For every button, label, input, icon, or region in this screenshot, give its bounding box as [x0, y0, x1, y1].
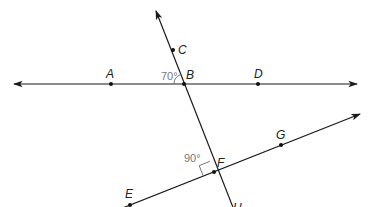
angle-label-B: 70°: [161, 70, 178, 82]
point-C: [171, 48, 175, 52]
point-F: [212, 170, 216, 174]
label-B: B: [186, 68, 194, 82]
label-D: D: [254, 67, 263, 81]
label-A: A: [105, 67, 114, 81]
line-CH: [156, 11, 236, 207]
point-G: [279, 143, 283, 147]
point-A: [109, 82, 113, 86]
label-G: G: [276, 128, 285, 142]
geometry-diagram: A B C D E F G H 70° 90°: [0, 0, 368, 207]
angle-label-F: 90°: [184, 152, 201, 164]
label-H: H: [233, 201, 242, 207]
point-B: [182, 82, 186, 86]
label-E: E: [125, 187, 134, 201]
point-E: [128, 203, 132, 207]
label-F: F: [217, 156, 225, 170]
label-C: C: [178, 43, 187, 57]
point-D: [256, 82, 260, 86]
line-EG: [110, 114, 360, 207]
